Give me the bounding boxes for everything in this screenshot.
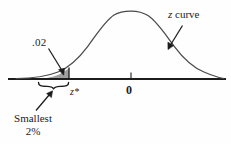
axis-origin-label: 0 [126, 84, 132, 97]
z-curve-label: z curve [168, 9, 199, 21]
smallest-percent-label: Smallest2% [2, 113, 64, 137]
critical-value-label: z* [70, 87, 79, 98]
tail-area-arrow [49, 49, 63, 71]
figure-canvas: .02 z* 0 z curve Smallest2% [0, 0, 231, 144]
smallest-pct-arrow [36, 95, 50, 111]
tail-area-label: .02 [32, 37, 46, 49]
critical-value-star: * [74, 86, 79, 97]
smallest-percent-line1: Smallest [14, 112, 52, 124]
z-curve-label-rest: curve [172, 8, 199, 20]
tail-width-brace [39, 83, 69, 89]
z-curve-arrow [171, 26, 183, 46]
smallest-percent-line2: 2% [2, 126, 64, 138]
z-curve-path [16, 11, 224, 79]
